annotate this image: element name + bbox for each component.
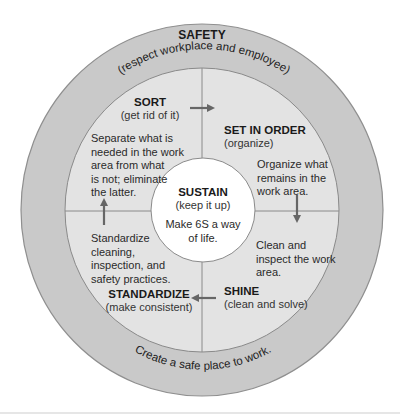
standardize-description-line: Standardize [91,232,201,246]
set-in-order-description: Organize what remains in the work area. [257,158,347,199]
shine-description-line: Clean and [256,239,356,253]
sustain-subtitle: (keep it up) [163,199,243,212]
set-in-order-subtitle: (organize) [224,137,334,150]
sort-description-line: is not; eliminate [91,173,201,187]
shine-heading: SHINE (clean and solve) [224,285,334,311]
standardize-subtitle: (make consistent) [104,301,194,314]
set-in-order-title: SET IN ORDER [224,124,334,137]
sustain-description-line: Make 6S a way [158,218,248,232]
set-in-order-description-line: Organize what [257,158,347,172]
shine-description-line: inspect the work [256,253,356,267]
sustain-title: SUSTAIN [163,186,243,199]
shine-description-line: area. [256,266,356,280]
sort-title: SORT [110,96,190,109]
sort-heading: SORT (get rid of it) [110,96,190,122]
set-in-order-description-line: work area. [257,185,347,199]
sustain-heading: SUSTAIN (keep it up) [163,186,243,212]
set-in-order-heading: SET IN ORDER (organize) [224,124,334,150]
six-s-diagram: (respect workplace and employee) Create … [0,0,400,414]
sort-description-line: Separate what is [91,132,201,146]
standardize-heading: STANDARDIZE (make consistent) [104,288,194,314]
standardize-title: STANDARDIZE [104,288,194,301]
set-in-order-description-line: remains in the [257,172,347,186]
standardize-description-line: cleaning, [91,246,201,260]
sort-description-line: needed in the work [91,146,201,160]
sort-subtitle: (get rid of it) [110,109,190,122]
sort-description-line: area from what [91,159,201,173]
shine-title: SHINE [224,285,334,298]
safety-title: SAFETY [162,29,242,42]
standardize-description-line: inspection, and [91,259,201,273]
shine-description: Clean and inspect the work area. [256,239,356,280]
standardize-description-line: safety practices. [91,273,201,287]
standardize-description: Standardize cleaning, inspection, and sa… [91,232,201,286]
shine-subtitle: (clean and solve) [224,298,334,311]
